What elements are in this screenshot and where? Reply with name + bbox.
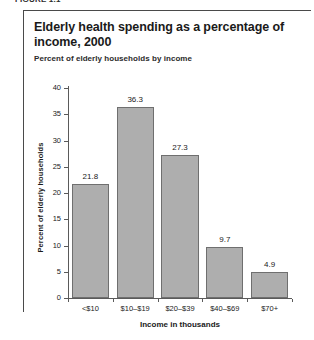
y-tick-mark [64,246,68,247]
x-tick-mark [158,299,159,302]
bar [206,247,243,298]
y-tick-label: 25 [40,163,61,171]
x-tick-mark [292,299,293,302]
y-tick-mark [64,193,68,194]
x-axis-line [68,298,292,299]
y-axis-line [68,86,69,299]
bar-value-label: 4.9 [245,260,295,269]
bar-value-label: 21.8 [65,172,115,181]
y-tick-label: 0 [40,294,61,302]
x-tick-mark [113,299,114,302]
bar [117,107,154,298]
x-tick-mark [68,299,69,302]
bar-value-label: 27.3 [155,143,205,152]
y-tick-label: 10 [40,242,61,250]
x-tick-mark [202,299,203,302]
y-tick-mark [64,141,68,142]
bar [161,155,198,298]
x-tick-label: $70+ [242,304,298,313]
y-tick-label: 35 [40,110,61,118]
y-tick-label: 40 [40,84,61,92]
y-tick-label: 5 [40,268,61,276]
y-tick-label: 15 [40,215,61,223]
y-tick-mark [64,88,68,89]
bar [251,272,288,298]
y-tick-label: 30 [40,137,61,145]
y-tick-mark [64,114,68,115]
x-tick-mark [247,299,248,302]
y-tick-mark [64,272,68,273]
bar [72,184,109,298]
bar-value-label: 36.3 [110,95,160,104]
y-tick-mark [64,167,68,168]
bar-chart-plot: Percent of elderly households Income in … [0,0,314,340]
x-axis-title: Income in thousands [68,320,292,329]
bar-value-label: 9.7 [200,235,250,244]
y-tick-label: 20 [40,189,61,197]
y-tick-mark [64,219,68,220]
